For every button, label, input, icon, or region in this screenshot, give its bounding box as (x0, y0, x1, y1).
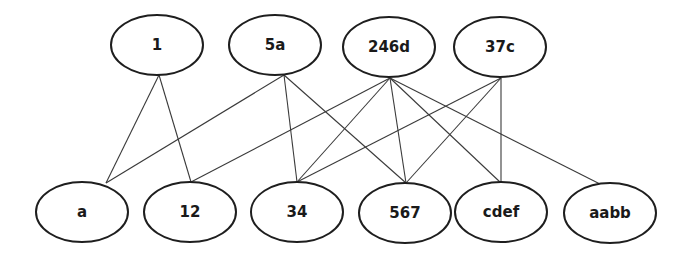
node-label: 246d (368, 38, 410, 56)
node-567: 567 (359, 183, 451, 243)
node-label: 567 (389, 204, 420, 222)
edge-246d-cdef (390, 78, 501, 183)
node-label: a (77, 203, 87, 221)
bipartite-graph: 15a246d37ca1234567cdefaabb (0, 0, 695, 258)
node-246d: 246d (343, 17, 435, 77)
node-12: 12 (144, 182, 236, 242)
edge-246d-12 (191, 78, 390, 182)
edges-layer (106, 75, 600, 184)
nodes-layer: 15a246d37ca1234567cdefaabb (36, 15, 656, 243)
node-label: cdef (483, 203, 520, 221)
node-37c: 37c (454, 17, 546, 77)
edge-5a-34 (284, 75, 297, 182)
node-label: 1 (152, 36, 162, 54)
node-5a: 5a (229, 15, 321, 75)
edge-1-12 (159, 75, 191, 182)
edge-37c-34 (297, 78, 501, 182)
node-label: 37c (485, 38, 515, 56)
node-1: 1 (111, 15, 203, 75)
node-cdef: cdef (455, 182, 547, 242)
edge-246d-34 (297, 78, 390, 182)
node-label: 12 (180, 203, 201, 221)
node-label: 5a (265, 36, 286, 54)
node-label: 34 (287, 203, 308, 221)
node-aabb: aabb (564, 183, 656, 243)
node-a: a (36, 182, 128, 242)
edge-246d-aabb (390, 78, 600, 184)
node-34: 34 (251, 182, 343, 242)
node-label: aabb (589, 204, 631, 222)
